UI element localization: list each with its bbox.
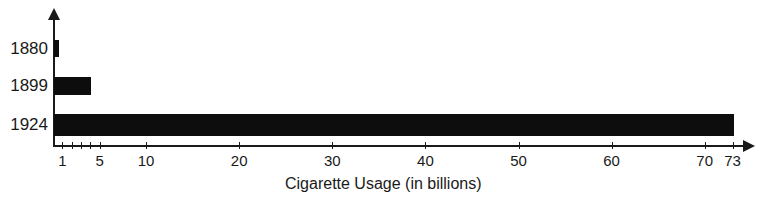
x-tick-label: 30 <box>324 152 341 169</box>
x-tick <box>519 142 520 149</box>
x-tick <box>100 142 101 149</box>
category-label: 1899 <box>0 76 48 96</box>
x-tick <box>425 142 426 149</box>
x-tick <box>612 142 613 149</box>
x-tick <box>90 142 91 149</box>
bar-1924 <box>54 114 734 136</box>
x-tick-label: 20 <box>231 152 248 169</box>
x-tick <box>239 142 240 149</box>
x-tick-label: 73 <box>724 152 741 169</box>
x-axis <box>53 145 745 147</box>
category-label: 1924 <box>0 115 48 135</box>
bar-1899 <box>54 77 91 95</box>
x-tick <box>146 142 147 149</box>
x-tick <box>62 142 63 149</box>
x-tick-label: 40 <box>417 152 434 169</box>
bar-1880 <box>54 40 59 57</box>
x-tick <box>733 142 734 149</box>
x-tick <box>72 142 73 149</box>
x-tick-label: 60 <box>603 152 620 169</box>
x-axis-label: Cigarette Usage (in billions) <box>285 175 482 193</box>
x-tick-label: 50 <box>510 152 527 169</box>
x-axis-arrow-icon <box>743 140 755 152</box>
x-tick <box>81 142 82 149</box>
x-tick <box>705 142 706 149</box>
x-tick-label: 70 <box>696 152 713 169</box>
x-tick-label: 1 <box>58 152 66 169</box>
x-tick-label: 10 <box>138 152 155 169</box>
x-tick <box>332 142 333 149</box>
category-label: 1880 <box>0 39 48 59</box>
horizontal-bar-chart: 188018991924 151020304050607073 Cigarett… <box>0 0 763 205</box>
x-tick-label: 5 <box>95 152 103 169</box>
